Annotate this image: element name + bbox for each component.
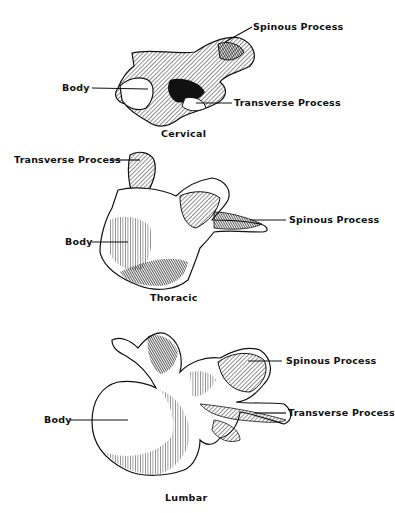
lumbar-body-label: Body [44, 414, 72, 425]
thoracic-body-label: Body [65, 236, 93, 247]
thoracic-caption: Thoracic [150, 292, 198, 303]
thoracic-transverse-process-label: Transverse Process [14, 154, 121, 165]
cervical-caption: Cervical [161, 128, 206, 139]
lumbar-spinous-process-label: Spinous Process [286, 355, 376, 366]
cervical-vertebra [116, 37, 255, 126]
lumbar-caption: Lumbar [165, 492, 207, 503]
lumbar-vertebra [92, 333, 291, 475]
cervical-spinous-process-label: Spinous Process [253, 21, 343, 32]
cervical-transverse-process-label: Transverse Process [234, 97, 341, 108]
lumbar-transverse-process-label: Transverse Process [288, 407, 395, 418]
cervical-body-label: Body [62, 82, 90, 93]
thoracic-spinous-process-label: Spinous Process [289, 214, 379, 225]
thoracic-vertebra [100, 152, 267, 289]
